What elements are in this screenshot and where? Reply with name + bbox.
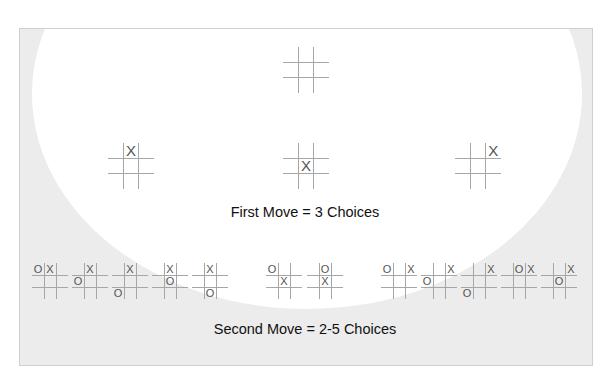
grid-line-horizontal [32,287,68,288]
x-mark: X [84,263,96,275]
x-mark: X [124,263,136,275]
second-move-board: XO [192,263,228,299]
second-move-board: OX [266,263,302,299]
x-mark: X [485,263,497,275]
o-mark: O [204,287,216,299]
x-mark: X [278,275,290,287]
empty-board [283,47,329,93]
o-mark: O [319,263,331,275]
o-mark: O [421,275,433,287]
o-mark: O [164,275,176,287]
first-move-label: First Move = 3 Choices [205,204,405,220]
second-move-board: OX [307,263,343,299]
second-move-board: XO [461,263,497,299]
second-move-board: XO [152,263,188,299]
second-move-board: XO [72,263,108,299]
x-mark: X [204,263,216,275]
o-mark: O [32,263,44,275]
first-move-board: X [455,143,501,189]
x-mark: X [405,263,417,275]
second-move-board: XO [112,263,148,299]
x-mark: X [525,263,537,275]
second-move-label: Second Move = 2-5 Choices [190,321,420,337]
grid-line-horizontal [455,173,501,174]
o-mark: O [513,263,525,275]
grid-line-vertical [298,47,299,93]
x-mark: X [123,143,138,158]
x-mark: X [565,263,577,275]
o-mark: O [553,275,565,287]
x-mark: X [298,158,313,173]
o-mark: O [112,287,124,299]
grid-line-horizontal [283,62,329,63]
second-move-board: OX [501,263,537,299]
first-move-board: X [108,143,154,189]
o-mark: O [381,263,393,275]
x-mark: X [445,263,457,275]
second-move-board: XO [421,263,457,299]
o-mark: O [266,263,278,275]
first-move-board: X [283,143,329,189]
x-mark: X [486,143,501,158]
grid-line-horizontal [501,287,537,288]
grid-line-vertical [313,47,314,93]
second-move-board: XO [541,263,577,299]
grid-line-horizontal [381,287,417,288]
o-mark: O [461,287,473,299]
second-move-board: OX [381,263,417,299]
grid-line-horizontal [283,77,329,78]
x-mark: X [164,263,176,275]
x-mark: X [44,263,56,275]
second-move-board: OX [32,263,68,299]
x-mark: X [319,275,331,287]
grid-line-horizontal [108,173,154,174]
grid-line-vertical [470,143,471,189]
o-mark: O [72,275,84,287]
